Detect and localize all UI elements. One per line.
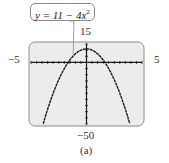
ymax-label: 15	[80, 26, 91, 37]
xmin-label: −5	[8, 54, 20, 65]
figure-caption: (a)	[80, 145, 92, 156]
equation-label: y = 11 − 4x2	[30, 3, 95, 21]
equation-rhs: 11 − 4x	[53, 9, 87, 21]
equation-exponent: 2	[86, 8, 90, 16]
equation-lhs: y	[35, 9, 40, 21]
ymin-label: −50	[77, 130, 94, 141]
xmax-label: 5	[154, 54, 160, 65]
